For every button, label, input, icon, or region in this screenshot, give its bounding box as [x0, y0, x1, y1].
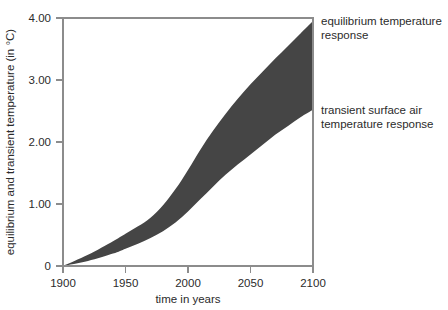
temperature-response-band: [63, 21, 313, 266]
band-fill-group: [63, 21, 313, 266]
transient-annotation: transient surface airtemperature respons…: [321, 104, 434, 130]
equilibrium-annotation: equilibrium temperatureresponse: [321, 15, 442, 41]
y-axis-tick-labels: 01.002.003.004.00: [29, 12, 51, 272]
x-axis-ticks: [63, 266, 313, 273]
transient-annotation-line: temperature response: [321, 118, 434, 130]
series-annotations: equilibrium temperatureresponsetransient…: [321, 15, 442, 130]
transient-annotation-line: transient surface air: [321, 104, 422, 116]
y-tick-label: 4.00: [29, 12, 51, 24]
y-tick-label: 1.00: [29, 198, 51, 210]
y-tick-label: 0: [45, 260, 51, 272]
climate-temperature-response-chart: 19001950200020502100 01.002.003.004.00 t…: [0, 0, 448, 310]
y-tick-label: 3.00: [29, 74, 51, 86]
chart-canvas: 19001950200020502100 01.002.003.004.00 t…: [0, 0, 448, 310]
y-axis-title: equilibrium and transient temperature (i…: [4, 29, 16, 256]
y-tick-label: 2.00: [29, 136, 51, 148]
x-tick-label: 1900: [50, 277, 76, 289]
x-axis-title: time in years: [155, 293, 220, 305]
y-axis-ticks: [56, 18, 63, 266]
plot-frame: [63, 18, 313, 266]
x-tick-label: 2000: [175, 277, 201, 289]
x-tick-label: 2100: [300, 277, 326, 289]
equilibrium-annotation-line: equilibrium temperature: [321, 15, 442, 27]
axis-group: [56, 18, 313, 273]
x-axis-tick-labels: 19001950200020502100: [50, 277, 326, 289]
equilibrium-annotation-line: response: [321, 29, 368, 41]
x-tick-label: 2050: [238, 277, 264, 289]
x-tick-label: 1950: [113, 277, 139, 289]
